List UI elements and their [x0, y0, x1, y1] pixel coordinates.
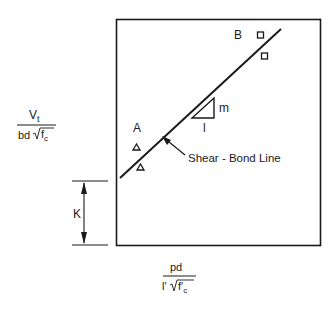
x-axis-label: pd l' f'c: [162, 261, 196, 295]
shear-bond-diagram: m l A B Shear - Bond Line K Vt bd fc pd …: [0, 0, 335, 312]
arrowhead-icon: [162, 136, 171, 145]
square-marker-icon: [262, 53, 268, 59]
triangle-marker-icon: [133, 144, 140, 150]
y-axis-numerator-subscript: t: [37, 114, 40, 124]
intercept-label: K: [73, 207, 81, 221]
x-axis-denominator-prefix: l': [162, 280, 167, 292]
svg-text:Vt: Vt: [29, 108, 40, 124]
y-axis-denominator-prefix: bd: [18, 129, 30, 141]
y-axis-numerator: V: [29, 108, 37, 122]
region-b-label: B: [234, 28, 242, 42]
slope-rise-label: m: [219, 101, 229, 115]
square-marker-icon: [258, 32, 264, 38]
arrow-down-icon: [81, 232, 87, 244]
shear-bond-line-label: Shear - Bond Line: [188, 152, 281, 164]
slope-run-label: l: [203, 121, 206, 135]
x-axis-root-subscript: c: [183, 286, 187, 295]
region-a-label: A: [133, 121, 141, 135]
x-axis-numerator: pd: [170, 261, 182, 273]
y-axis-label: Vt bd fc: [17, 108, 56, 143]
svg-text:bd: bd: [18, 129, 30, 141]
triangle-marker-icon: [137, 164, 144, 170]
plot-frame: [117, 20, 321, 246]
arrow-up-icon: [81, 182, 87, 194]
svg-text:f'c: f'c: [178, 280, 187, 295]
svg-text:fc: fc: [41, 128, 48, 143]
y-axis-root-subscript: c: [44, 134, 48, 143]
